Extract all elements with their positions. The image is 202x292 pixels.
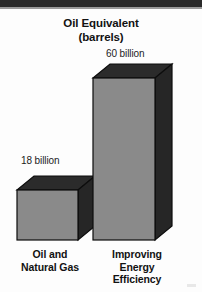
category-label-line: Efficiency xyxy=(92,273,182,286)
category-label-line: Improving xyxy=(92,248,182,261)
bar-right-side-face xyxy=(155,64,172,240)
bar-right-front-face xyxy=(93,78,155,240)
bar-oil-and-natural-gas xyxy=(17,176,95,240)
corner-scan-artifact xyxy=(187,284,196,287)
bar-improving-energy-efficiency xyxy=(93,64,172,240)
category-label-line: Energy xyxy=(92,261,182,274)
category-label-line: Oil and xyxy=(7,248,93,261)
category-label-oil-and-natural-gas: Oil and Natural Gas xyxy=(7,248,93,273)
category-label-improving-energy-efficiency: Improving Energy Efficiency xyxy=(92,248,182,286)
chart-figure: Oil Equivalent (barrels) 18 billion 60 b… xyxy=(0,0,202,292)
bar-left-front-face xyxy=(17,190,78,240)
category-label-line: Natural Gas xyxy=(7,261,93,274)
